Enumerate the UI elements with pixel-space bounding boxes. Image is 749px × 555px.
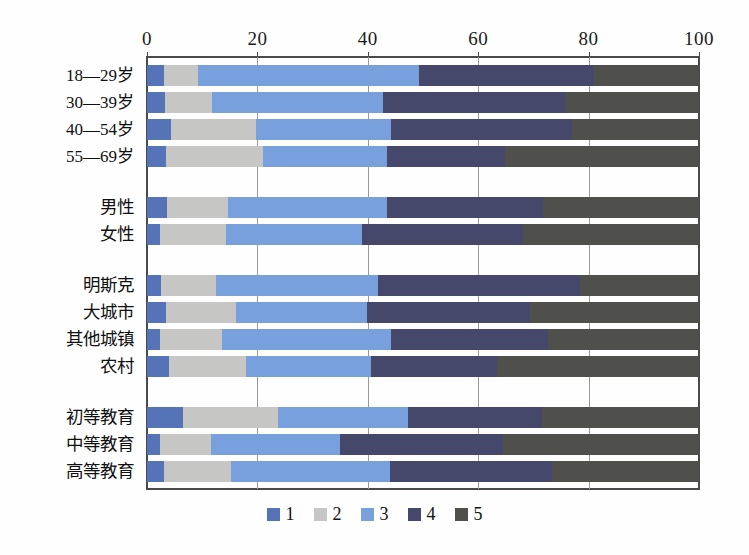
bar-segment-series-5 xyxy=(548,329,699,350)
category-label-settlement: 其他城镇 xyxy=(0,331,140,349)
bar-segment-series-2 xyxy=(161,275,216,296)
bar-segment-series-4 xyxy=(378,275,580,296)
legend-label: 3 xyxy=(380,505,389,523)
legend-swatch-icon xyxy=(267,508,280,521)
bar-segment-series-4 xyxy=(390,461,552,482)
category-label-settlement: 大城市 xyxy=(0,304,140,322)
bar-segment-series-5 xyxy=(497,356,699,377)
bar-row xyxy=(147,92,699,113)
bar-segment-series-2 xyxy=(164,461,232,482)
bar-segment-series-5 xyxy=(530,302,699,323)
bar-segment-series-3 xyxy=(216,275,378,296)
x-tick-label: 80 xyxy=(579,28,599,50)
bar-segment-series-1 xyxy=(147,197,167,218)
bar-segment-series-4 xyxy=(367,302,530,323)
bar-segment-series-3 xyxy=(212,92,384,113)
bar-segment-series-5 xyxy=(594,65,699,86)
bar-segment-series-2 xyxy=(160,329,221,350)
legend-item-4[interactable]: 4 xyxy=(408,505,436,523)
bar-segment-series-1 xyxy=(147,92,165,113)
bar-segment-series-1 xyxy=(147,65,164,86)
x-tick-label: 60 xyxy=(468,28,488,50)
bar-segment-series-1 xyxy=(147,119,171,140)
bar-segment-series-3 xyxy=(211,434,340,455)
bar-segment-series-4 xyxy=(383,92,565,113)
legend-label: 1 xyxy=(286,505,295,523)
bar-segment-series-4 xyxy=(340,434,503,455)
bar-segment-series-2 xyxy=(165,92,212,113)
bar-segment-series-2 xyxy=(169,356,246,377)
bar-segment-series-4 xyxy=(391,119,572,140)
bar-segment-series-5 xyxy=(505,146,699,167)
category-label-age: 30—39岁 xyxy=(0,94,140,111)
bar-segment-series-4 xyxy=(391,329,548,350)
legend-swatch-icon xyxy=(455,508,468,521)
bar-segment-series-5 xyxy=(572,119,699,140)
bar-segment-series-1 xyxy=(147,329,160,350)
legend-item-3[interactable]: 3 xyxy=(361,505,389,523)
category-label-education: 高等教育 xyxy=(0,463,140,481)
bar-segment-series-1 xyxy=(147,356,169,377)
category-label-settlement: 农村 xyxy=(0,358,140,376)
legend-item-2[interactable]: 2 xyxy=(314,505,342,523)
bar-segment-series-1 xyxy=(147,302,166,323)
bar-row xyxy=(147,461,699,482)
bar-segment-series-2 xyxy=(166,146,263,167)
bar-row xyxy=(147,434,699,455)
bar-segment-series-2 xyxy=(167,197,228,218)
bar-segment-series-2 xyxy=(160,434,211,455)
bar-segment-series-2 xyxy=(166,302,236,323)
legend-swatch-icon xyxy=(314,508,327,521)
category-label-education: 中等教育 xyxy=(0,436,140,454)
chart-legend: 12345 xyxy=(0,505,749,523)
bar-segment-series-5 xyxy=(565,92,699,113)
bar-segment-series-3 xyxy=(222,329,391,350)
bar-row xyxy=(147,275,699,296)
legend-swatch-icon xyxy=(361,508,374,521)
x-tick-label: 100 xyxy=(684,28,714,50)
bar-segment-series-1 xyxy=(147,146,166,167)
category-label-education: 初等教育 xyxy=(0,409,140,427)
legend-item-1[interactable]: 1 xyxy=(267,505,295,523)
bar-segment-series-3 xyxy=(226,224,362,245)
bar-segment-series-2 xyxy=(171,119,257,140)
bar-segment-series-1 xyxy=(147,434,160,455)
bar-segment-series-4 xyxy=(387,146,506,167)
category-label-age: 40—54岁 xyxy=(0,121,140,138)
bar-segment-series-3 xyxy=(278,407,408,428)
x-tick-label: 20 xyxy=(247,28,267,50)
bar-segment-series-3 xyxy=(246,356,371,377)
bar-row xyxy=(147,146,699,167)
category-label-settlement: 明斯克 xyxy=(0,277,140,295)
bar-segment-series-5 xyxy=(543,197,699,218)
bar-row xyxy=(147,65,699,86)
bar-segment-series-5 xyxy=(542,407,699,428)
bar-row xyxy=(147,224,699,245)
bar-segment-series-5 xyxy=(503,434,699,455)
bar-segment-series-3 xyxy=(198,65,419,86)
category-label-gender: 男性 xyxy=(0,199,140,217)
bar-segment-series-2 xyxy=(160,224,226,245)
bar-segment-series-2 xyxy=(183,407,278,428)
bar-segment-series-4 xyxy=(371,356,497,377)
bar-segment-series-1 xyxy=(147,275,161,296)
bar-segment-series-5 xyxy=(552,461,699,482)
bar-segment-series-3 xyxy=(231,461,389,482)
legend-item-5[interactable]: 5 xyxy=(455,505,483,523)
bar-segment-series-4 xyxy=(362,224,523,245)
bar-segment-series-3 xyxy=(236,302,367,323)
bar-segment-series-1 xyxy=(147,224,160,245)
legend-swatch-icon xyxy=(408,508,421,521)
stacked-bar-chart: 020406080100 18—29岁30—39岁40—54岁55—69岁男性女… xyxy=(0,0,749,555)
bar-segment-series-4 xyxy=(387,197,543,218)
x-tick-mark xyxy=(699,52,700,58)
bar-segment-series-4 xyxy=(408,407,542,428)
bar-row xyxy=(147,329,699,350)
bar-row xyxy=(147,302,699,323)
bar-segment-series-3 xyxy=(256,119,391,140)
bar-row xyxy=(147,356,699,377)
category-label-age: 18—29岁 xyxy=(0,67,140,84)
bar-segment-series-1 xyxy=(147,461,164,482)
x-tick-label: 0 xyxy=(142,28,152,50)
category-label-age: 55—69岁 xyxy=(0,148,140,165)
